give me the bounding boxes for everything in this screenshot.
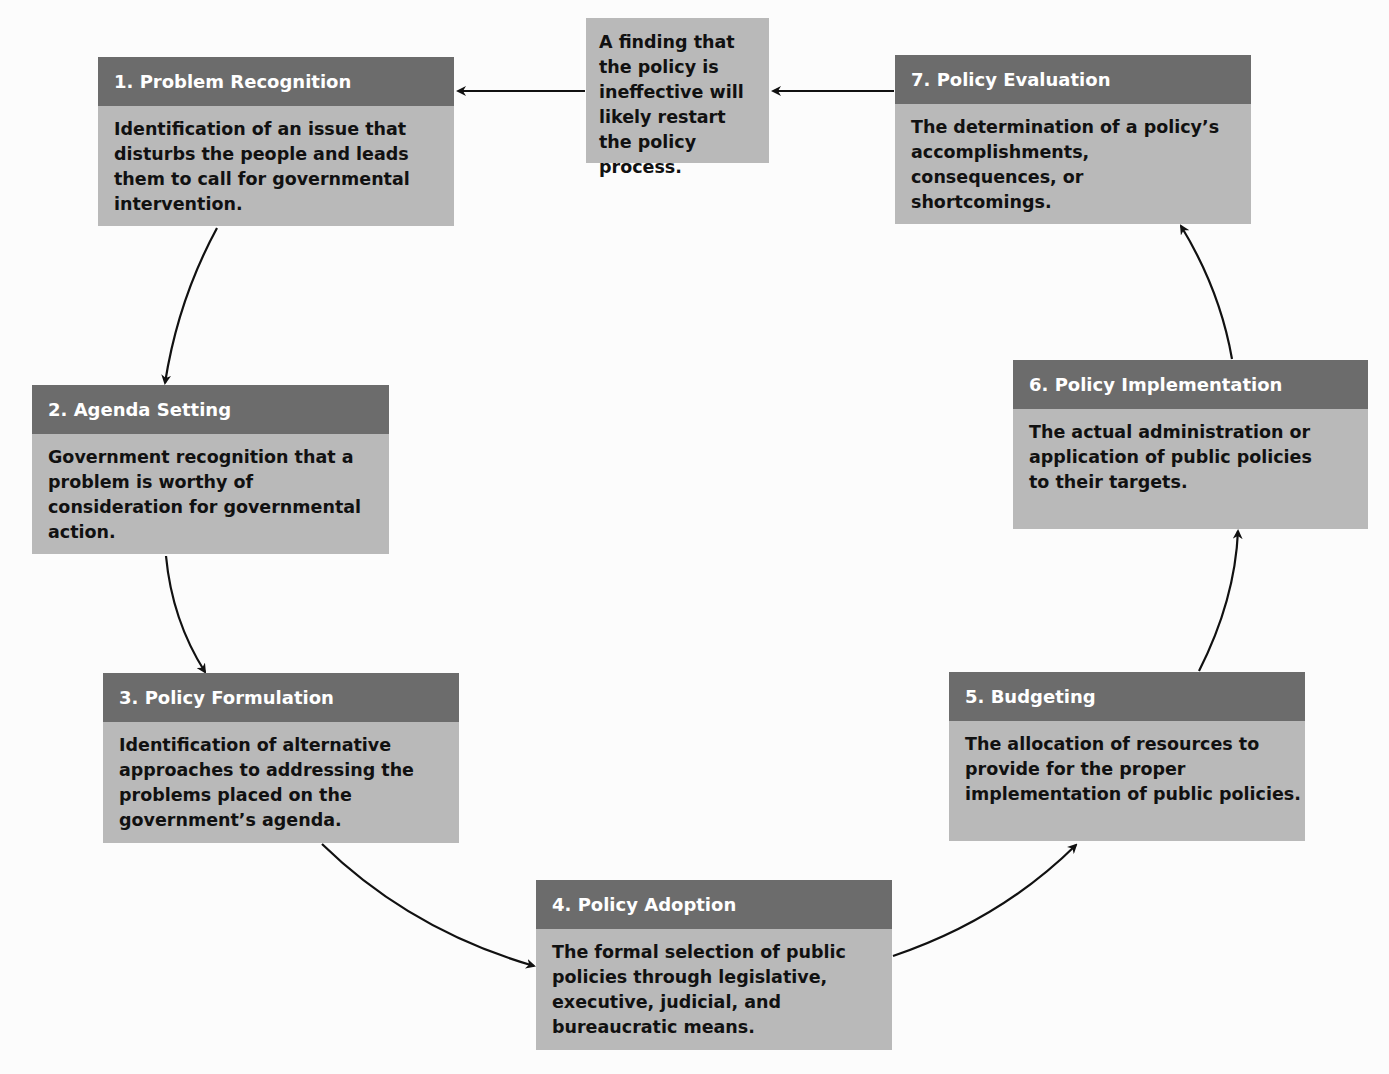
stage-title: 2. Agenda Setting [32,385,389,434]
stage-policy-implementation: 6. Policy Implementation The actual admi… [1013,360,1368,529]
stage-agenda-setting: 2. Agenda Setting Government recognition… [32,385,389,554]
stage-title: 5. Budgeting [949,672,1305,721]
stage-title: 1. Problem Recognition [98,57,454,106]
stage-title: 4. Policy Adoption [536,880,892,929]
stage-policy-adoption: 4. Policy Adoption The formal selection … [536,880,892,1050]
arrow-6-to-7 [1181,226,1232,359]
stage-problem-recognition: 1. Problem Recognition Identification of… [98,57,454,226]
stage-description: The formal selection of public policies … [536,929,892,1050]
restart-note: A finding that the policy is ineffective… [586,18,769,163]
stage-description: The determination of a policy’s accompli… [895,104,1251,225]
stage-title: 7. Policy Evaluation [895,55,1251,104]
stage-title: 3. Policy Formulation [103,673,459,722]
stage-description: The allocation of resources to provide f… [949,721,1305,817]
stage-description: Identification of alternative approaches… [103,722,459,843]
arrow-5-to-6 [1199,531,1238,671]
arrow-3-to-4 [322,844,534,966]
stage-description: Government recognition that a problem is… [32,434,389,555]
stage-budgeting: 5. Budgeting The allocation of resources… [949,672,1305,841]
restart-note-text: A finding that the policy is ineffective… [599,32,744,177]
stage-description: The actual administration or application… [1013,409,1368,505]
stage-policy-evaluation: 7. Policy Evaluation The determination o… [895,55,1251,224]
arrow-2-to-3 [166,556,205,672]
policy-cycle-diagram: A finding that the policy is ineffective… [0,0,1389,1074]
stage-policy-formulation: 3. Policy Formulation Identification of … [103,673,459,843]
stage-title: 6. Policy Implementation [1013,360,1368,409]
stage-description: Identification of an issue that disturbs… [98,106,454,227]
arrow-1-to-2 [165,228,217,383]
arrow-4-to-5 [893,845,1076,956]
